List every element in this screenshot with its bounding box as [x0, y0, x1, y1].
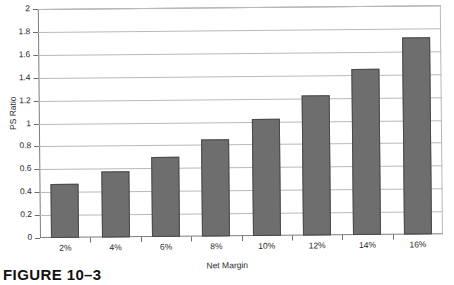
x-tick-label: 8% [194, 241, 238, 251]
x-tick-label: 6% [144, 242, 188, 252]
y-tick-label: 1.6 [0, 49, 30, 59]
y-tick-mark [34, 146, 39, 147]
bar [201, 139, 230, 237]
x-tick-label: 10% [245, 241, 289, 251]
x-tick-mark [292, 236, 293, 241]
y-tick-mark [33, 9, 38, 10]
y-tick-mark [34, 101, 39, 102]
y-tick-mark [35, 215, 40, 216]
bar [352, 69, 382, 235]
y-tick-mark [33, 78, 38, 79]
bar-chart: 00.20.40.60.811.21.41.61.82 2%4%6%8%10%1… [0, 0, 454, 252]
y-tick-mark [35, 238, 40, 239]
y-tick-mark [35, 192, 40, 193]
figure-container: 00.20.40.60.811.21.41.61.82 2%4%6%8%10%1… [0, 0, 454, 285]
y-tick-label: 1.8 [0, 26, 30, 36]
bar [402, 37, 432, 234]
y-tick-label: 2 [0, 3, 30, 13]
x-tick-label: 16% [396, 239, 440, 249]
x-tick-label: 4% [94, 242, 138, 252]
y-tick-label: 0.6 [1, 163, 31, 173]
bar [101, 171, 130, 238]
y-tick-mark [33, 55, 38, 56]
bar [252, 119, 281, 236]
y-tick-mark [34, 124, 39, 125]
y-tick-label: 0.2 [2, 209, 32, 219]
x-tick-mark [90, 238, 91, 243]
x-tick-label: 2% [43, 243, 87, 253]
y-tick-label: 0.4 [2, 186, 32, 196]
y-tick-mark [33, 32, 38, 33]
y-axis-title: PS Ratio [8, 83, 19, 143]
y-tick-label: 1.4 [0, 72, 30, 82]
y-tick-mark [34, 169, 39, 170]
x-tick-label: 14% [345, 240, 389, 250]
x-tick-mark [241, 236, 242, 241]
x-tick-mark [191, 237, 192, 242]
x-tick-mark [342, 235, 343, 240]
y-tick-label: 0 [2, 232, 32, 242]
bar [51, 184, 80, 238]
bar [302, 96, 331, 236]
x-tick-mark [393, 235, 394, 240]
bar [151, 157, 180, 237]
x-tick-mark [141, 237, 142, 242]
x-tick-label: 12% [295, 240, 339, 250]
figure-caption: FIGURE 10–3 [3, 266, 102, 283]
